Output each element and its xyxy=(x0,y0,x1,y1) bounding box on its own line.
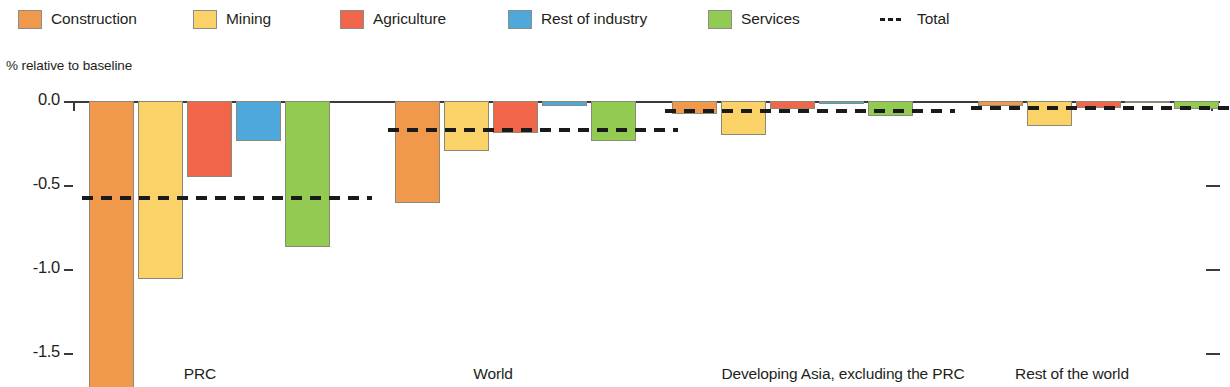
y-axis-tick-label: -1.0 xyxy=(8,258,60,277)
bar-construction-prc xyxy=(89,101,134,387)
bar-rest-of-industry-prc xyxy=(236,101,281,141)
y-axis-tick-label: 0.0 xyxy=(8,90,60,109)
total-line-rest-of-the-world xyxy=(971,106,1230,110)
bar-mining-prc xyxy=(138,101,183,279)
y-axis-left-spine xyxy=(73,101,75,111)
bar-mining-world xyxy=(444,101,489,151)
x-axis-category-label: PRC xyxy=(184,365,216,383)
y-axis-tick-mark-right xyxy=(1206,353,1220,355)
y-axis-tick-mark-right xyxy=(1206,269,1220,271)
x-axis-category-label: World xyxy=(473,365,512,383)
chart-plot-area: 0.0-0.5-1.0-1.5-2.0-2.5-3.0PRCWorldDevel… xyxy=(0,0,1230,387)
y-axis-tick-label: -0.5 xyxy=(8,174,60,193)
y-axis-tick-mark-left xyxy=(64,185,73,187)
bar-rest-of-industry-developing-asia-excluding-the-prc xyxy=(819,101,864,104)
bar-agriculture-prc xyxy=(187,101,232,177)
x-axis-category-label: Rest of the world xyxy=(1015,365,1129,383)
bar-construction-world xyxy=(395,101,440,203)
bar-rest-of-industry-rest-of-the-world xyxy=(1125,101,1170,103)
y-axis-tick-mark-left xyxy=(64,101,73,103)
total-line-developing-asia-excluding-the-prc xyxy=(665,109,955,113)
total-line-world xyxy=(388,128,678,132)
y-axis-tick-mark-left xyxy=(64,269,73,271)
x-axis-category-label: Developing Asia, excluding the PRC xyxy=(721,365,964,383)
y-axis-tick-mark-left xyxy=(64,353,73,355)
y-axis-tick-label: -1.5 xyxy=(8,342,60,361)
bar-services-prc xyxy=(285,101,330,247)
y-axis-tick-mark-right xyxy=(1206,185,1220,187)
bar-services-world xyxy=(591,101,636,141)
bar-rest-of-industry-world xyxy=(542,101,587,106)
bar-mining-developing-asia-excluding-the-prc xyxy=(721,101,766,135)
total-line-prc xyxy=(82,196,372,200)
